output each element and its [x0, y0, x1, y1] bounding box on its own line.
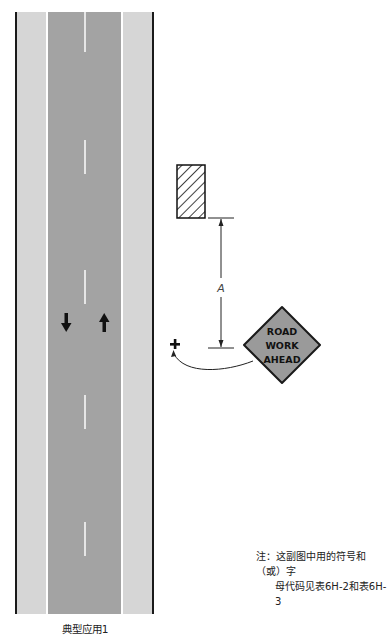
left-shoulder [17, 12, 47, 614]
note-line-2: 母代码见表6H-2和表6H-3 [256, 579, 387, 609]
leader-arrow [174, 354, 253, 370]
dimension-label: A [216, 282, 225, 295]
diagram-canvas: A ROAD WORK AHEAD [0, 0, 387, 641]
svg-text:AHEAD: AHEAD [263, 354, 300, 365]
sign-location-plus-icon [170, 339, 180, 349]
road [15, 12, 154, 614]
work-area-icon [177, 165, 205, 218]
figure-caption: 典型应用1 [0, 621, 170, 636]
leader-arrowhead [171, 350, 176, 357]
symbol-note: 注：这副图中用的符号和（或）字 母代码见表6H-2和表6H-3 [256, 549, 387, 609]
left-edge-line [46, 12, 48, 614]
right-shoulder [122, 12, 152, 614]
svg-text:WORK: WORK [265, 340, 299, 351]
note-line-1: 注：这副图中用的符号和（或）字 [256, 551, 366, 577]
road-work-ahead-sign: ROAD WORK AHEAD [244, 307, 320, 383]
right-edge-line [121, 12, 123, 614]
right-outer-edge [152, 12, 154, 614]
svg-text:ROAD: ROAD [267, 326, 297, 337]
left-outer-edge [15, 12, 17, 614]
